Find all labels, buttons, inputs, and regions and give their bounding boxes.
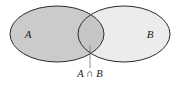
set-b-label: B: [147, 28, 154, 40]
venn-diagram-canvas: A B A ∩ B: [0, 0, 179, 85]
venn-diagram: A B A ∩ B: [0, 0, 179, 85]
set-a-label: A: [24, 28, 32, 40]
intersection-caption: A ∩ B: [76, 68, 103, 79]
